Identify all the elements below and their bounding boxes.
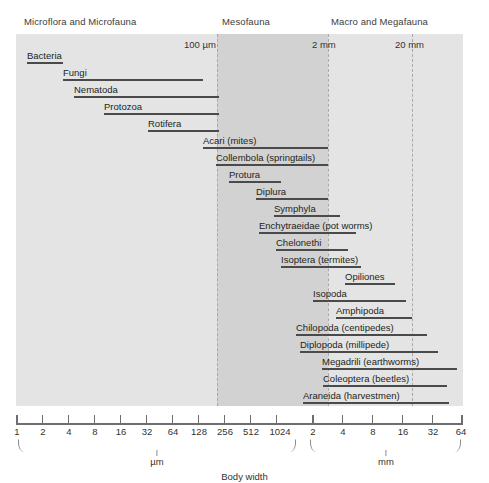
axis-tick: [342, 415, 343, 423]
axis-tick: [224, 415, 225, 423]
taxon-row: Collembola (springtails): [16, 152, 463, 169]
taxon-label: Araneida (harvestmen): [303, 390, 400, 401]
taxon-row: Symphyla: [16, 203, 463, 220]
taxon-bar: [276, 249, 348, 252]
taxon-row: Coleoptera (beetles): [16, 373, 463, 390]
axis-tick-label: 4: [340, 426, 345, 437]
axis-tick-label: 128: [191, 426, 207, 437]
taxon-label: Symphyla: [274, 203, 316, 214]
taxon-label: Fungi: [63, 67, 87, 78]
taxon-row: Amphipoda: [16, 305, 463, 322]
axis-tick-label: 8: [370, 426, 375, 437]
axis-tick: [276, 415, 277, 423]
axis-tick-label: 16: [398, 426, 409, 437]
plot-panel: 100 µm 2 mm 20 mm Bacteria Fungi Nematod…: [16, 34, 463, 406]
taxon-row: Protura: [16, 169, 463, 186]
unit-label-micrometre: µm: [150, 456, 163, 467]
axis-tick: [94, 415, 95, 423]
axis-line: [16, 423, 463, 425]
axis-tick-label: 2: [40, 426, 45, 437]
boundary-label-2mm: 2 mm: [312, 39, 336, 50]
taxon-bar: [323, 385, 447, 388]
taxon-bar: [63, 79, 203, 82]
axis-tick: [172, 415, 173, 423]
axis-tick-label: 16: [116, 426, 127, 437]
taxon-label: Chilopoda (centipedes): [296, 322, 394, 333]
taxon-row: Enchytraeidae (pot worms): [16, 220, 463, 237]
taxon-bar: [296, 334, 427, 337]
axis-tick: [146, 415, 147, 423]
taxon-label: Opiliones: [345, 271, 385, 282]
axis-tick-label: 32: [428, 426, 439, 437]
taxon-label: Isoptera (termites): [281, 254, 358, 265]
axis-tick-label: 256: [217, 426, 233, 437]
axis-title: Body width: [0, 471, 489, 482]
taxon-bar: [256, 198, 328, 201]
axis-tick: [432, 415, 433, 423]
taxon-bar: [27, 62, 63, 65]
taxon-bar: [336, 317, 412, 320]
axis-tick-label: 2: [310, 426, 315, 437]
taxon-row: Rotifera: [16, 118, 463, 135]
axis-tick: [16, 415, 18, 425]
taxon-label: Coleoptera (beetles): [323, 373, 409, 384]
x-axis: 1 2 4 8 16 32 64 128 256 512 1024 2 4 8 …: [0, 406, 489, 483]
axis-tick: [461, 415, 463, 425]
taxon-bar: [229, 181, 281, 184]
taxon-row: Isoptera (termites): [16, 254, 463, 271]
taxon-bar: [303, 402, 449, 405]
taxon-bar: [313, 300, 406, 303]
taxon-label: Megadrili (earthworms): [322, 356, 419, 367]
taxon-bar: [203, 147, 328, 150]
axis-tick: [250, 415, 251, 423]
taxon-bar: [259, 232, 356, 235]
axis-tick-label: 512: [243, 426, 259, 437]
taxon-row: Chilopoda (centipedes): [16, 322, 463, 339]
taxon-row: Isopoda: [16, 288, 463, 305]
taxon-row: Araneida (harvestmen): [16, 390, 463, 406]
taxon-row: Acari (mites): [16, 135, 463, 152]
axis-tick-label: 32: [142, 426, 153, 437]
axis-tick-label: 64: [168, 426, 179, 437]
taxon-row: Nematoda: [16, 84, 463, 101]
soil-fauna-body-width-chart: Microflora and Microfauna Mesofauna Macr…: [0, 0, 489, 483]
taxon-bar: [148, 130, 219, 133]
taxon-label: Enchytraeidae (pot worms): [259, 220, 373, 231]
taxon-bar: [216, 164, 328, 167]
taxon-label: Diplopoda (millipede): [300, 339, 389, 350]
axis-tick: [120, 415, 121, 423]
taxon-label: Protura: [229, 169, 260, 180]
taxon-label: Acari (mites): [203, 135, 256, 146]
axis-tick: [198, 415, 199, 423]
taxon-label: Bacteria: [27, 50, 62, 61]
group-header-macro-megafauna: Macro and Megafauna: [331, 16, 428, 27]
taxon-row: Megadrili (earthworms): [16, 356, 463, 373]
boundary-label-100um: 100 µm: [184, 39, 216, 50]
taxon-row: Opiliones: [16, 271, 463, 288]
axis-tick: [68, 415, 69, 423]
axis-tick-label: 1024: [269, 426, 290, 437]
axis-tick: [312, 415, 314, 425]
taxon-label: Isopoda: [313, 288, 347, 299]
axis-tick: [402, 415, 403, 423]
taxon-bar: [300, 351, 438, 354]
taxon-row: Bacteria: [16, 50, 463, 67]
taxon-label: Diplura: [256, 186, 286, 197]
boundary-label-20mm: 20 mm: [395, 39, 424, 50]
taxon-row: Diplura: [16, 186, 463, 203]
taxon-label: Rotifera: [148, 118, 181, 129]
axis-tick: [372, 415, 373, 423]
taxon-label: Protozoa: [104, 101, 142, 112]
taxon-label: Collembola (springtails): [216, 152, 315, 163]
taxon-bar: [345, 283, 395, 286]
group-header-mesofauna: Mesofauna: [222, 16, 270, 27]
taxon-label: Amphipoda: [336, 305, 384, 316]
taxon-bar: [104, 113, 219, 116]
group-header-microflora: Microflora and Microfauna: [24, 16, 136, 27]
unit-label-millimetre: mm: [378, 456, 394, 467]
taxon-label: Nematoda: [74, 84, 118, 95]
axis-tick-label: 1: [14, 426, 19, 437]
taxon-bar: [74, 96, 219, 99]
taxon-bar: [274, 215, 340, 218]
axis-tick-label: 64: [456, 426, 467, 437]
